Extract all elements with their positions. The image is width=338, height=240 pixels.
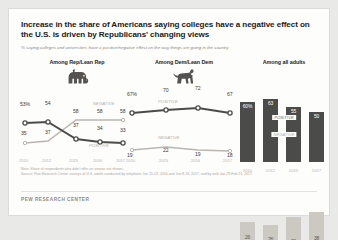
democratic-donkey-icon [171, 68, 197, 85]
bar-positive-annotation: POSITIVE [272, 115, 296, 120]
bar-positive-2017: 50 [309, 112, 324, 162]
rep-positive-value-2012: 54 [45, 100, 50, 106]
rep-negative-value-2012: 37 [45, 129, 50, 135]
chart-card: Increase in the share of Americans sayin… [8, 8, 330, 216]
bar-positive-2012: 63 [263, 99, 278, 162]
rep-axis-year-2016: 2016 [93, 158, 102, 163]
all-adults-bar-plot: 60% 26 2010 63 26 2012 55 [240, 74, 328, 174]
panel-democrats-title: Among Dem/Lean Dem [126, 59, 242, 65]
pew-research-center-logo: PEW RESEARCH CENTER [21, 197, 89, 202]
bar-negative-annotation: NEGATIVE [271, 132, 296, 137]
bar-negative-2017: 38 [309, 212, 324, 224]
chart-title: Increase in the share of Americans sayin… [21, 20, 317, 40]
chart-notes: Note: Share of respondents who didn't of… [21, 167, 321, 176]
dem-axis-year-2017: 2017 [223, 158, 232, 163]
rep-positive-annotation: POSITIVE [89, 143, 109, 148]
rep-positive-value-2016: 34 [97, 125, 102, 131]
footer-divider [21, 191, 317, 192]
panel-republicans-title: Among Rep/Lean Rep [19, 59, 135, 65]
bar-negative-2015: 36 [286, 217, 301, 224]
dem-axis-year-2016: 2016 [191, 158, 200, 163]
rep-negative-value-2017: 58 [120, 108, 125, 114]
rep-axis-year-2015: 2015 [69, 158, 78, 163]
dem-positive-value-2015: 70 [163, 87, 168, 93]
bar-positive-label-2017: 50 [309, 114, 324, 119]
dem-positive-annotation: POSITIVE [158, 99, 178, 104]
panel-all-adults-title: Among all adults [240, 59, 328, 65]
dem-negative-value-2015: 22 [163, 147, 168, 153]
rep-positive-value-2015: 37 [73, 122, 78, 128]
bar-negative-2010: 26 [240, 222, 255, 224]
dem-axis-year-2015: 2015 [159, 158, 168, 163]
rep-positive-value-2010: 53% [20, 101, 30, 107]
dem-negative-value-2016: 19 [195, 151, 200, 157]
dem-positive-value-2016: 72 [195, 85, 200, 91]
bar-positive-label-2012: 63 [263, 101, 278, 106]
dem-negative-annotation: NEGATIVE [158, 135, 179, 140]
rep-axis-year-2010: 2010 [19, 158, 28, 163]
bar-positive-label-2015: 55 [286, 109, 301, 114]
chart-subtitle: % saying colleges and universities have … [21, 45, 321, 51]
rep-axis-year-2012: 2012 [42, 158, 51, 163]
rep-negative-value-2016: 58 [97, 108, 102, 114]
rep-positive-value-2017: 33 [120, 127, 125, 133]
republican-elephant-icon [64, 68, 90, 85]
bar-positive-2010: 60% [240, 102, 255, 162]
panel-democrats-plot [126, 87, 242, 157]
source-line: Source: Pew Research Center surveys of U… [21, 172, 321, 177]
rep-axis-year-2017: 2017 [116, 158, 125, 163]
rep-negative-annotation: NEGATIVE [93, 101, 114, 106]
dem-positive-value-2017: 67 [227, 91, 232, 97]
rep-negative-value-2010: 35 [21, 130, 26, 136]
dem-axis-year-2010: 2010 [126, 158, 135, 163]
bar-positive-label-2010: 60% [240, 104, 255, 109]
rep-negative-value-2015: 58 [73, 108, 78, 114]
dem-positive-value-2010: 67% [127, 91, 137, 97]
